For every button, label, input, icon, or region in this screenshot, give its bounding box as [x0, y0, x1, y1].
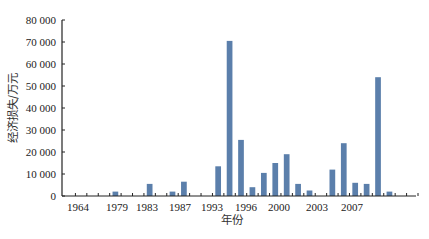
y-tick-label: 0	[51, 190, 57, 202]
y-tick-label: 20 000	[26, 146, 57, 158]
bar	[227, 41, 233, 196]
bar	[307, 191, 313, 197]
bar	[330, 170, 336, 196]
x-tick-label: 2007	[341, 201, 364, 213]
y-tick-label: 70 000	[26, 36, 57, 48]
x-tick-label: 1983	[136, 201, 159, 213]
bar	[387, 192, 393, 196]
bar	[272, 163, 278, 196]
y-tick-label: 80 000	[26, 14, 57, 26]
bar	[364, 184, 370, 196]
x-tick-label: 1979	[106, 201, 129, 213]
x-axis-title: 年份	[221, 213, 244, 227]
bar	[113, 192, 119, 196]
y-tick-label: 10 000	[26, 168, 57, 180]
bar	[147, 184, 153, 196]
bar	[181, 182, 187, 196]
y-tick-label: 50 000	[26, 80, 57, 92]
x-tick-label: 2000	[268, 201, 291, 213]
bar	[170, 192, 176, 196]
bar	[250, 187, 256, 196]
bar	[341, 143, 347, 196]
bar	[352, 183, 358, 196]
bar	[261, 173, 267, 196]
y-tick-label: 60 000	[26, 58, 57, 70]
x-tick-label: 2003	[306, 201, 329, 213]
bars	[113, 41, 393, 196]
bar	[295, 184, 301, 196]
y-tick-label: 30 000	[26, 124, 57, 136]
bar-chart: 010 00020 00030 00040 00050 00060 00070 …	[0, 0, 429, 239]
x-tick-label: 1993	[201, 201, 224, 213]
x-tick-label: 1996	[235, 201, 258, 213]
y-tick-label: 40 000	[26, 102, 57, 114]
bar	[375, 77, 381, 196]
bar	[284, 154, 290, 196]
bar	[238, 140, 244, 196]
bar	[215, 166, 221, 196]
y-axis-ticks: 010 00020 00030 00040 00050 00060 00070 …	[26, 14, 65, 202]
x-tick-label: 1987	[169, 201, 192, 213]
x-tick-label: 1964	[67, 201, 90, 213]
y-axis-title: 经济损失/万元	[6, 72, 20, 143]
